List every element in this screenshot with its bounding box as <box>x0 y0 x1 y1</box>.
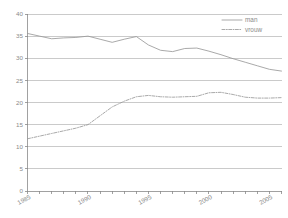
y-tick-label: 15 <box>16 121 23 128</box>
y-tick-label: 30 <box>16 54 23 61</box>
line-chart: 0510152025303540 19851990199520002005 ma… <box>0 0 288 218</box>
y-tick-label: 40 <box>16 10 23 17</box>
legend-label-man: man <box>245 16 258 23</box>
y-tick-label: 10 <box>16 143 23 150</box>
chart-container: 0510152025303540 19851990199520002005 ma… <box>0 0 288 218</box>
legend-label-vrouw: vrouw <box>245 26 262 33</box>
y-tick-label: 25 <box>16 77 23 84</box>
y-tick-label: 5 <box>20 165 24 172</box>
y-tick-label: 35 <box>16 32 23 39</box>
y-tick-label: 20 <box>16 99 23 106</box>
y-tick-label: 0 <box>20 187 24 194</box>
